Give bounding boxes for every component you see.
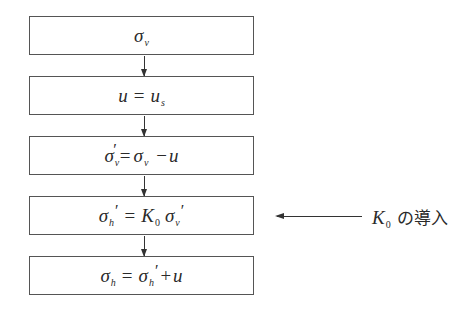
k-symbol: K	[141, 205, 154, 227]
u-symbol: u	[150, 85, 160, 107]
prime-mark: ′	[113, 141, 117, 159]
equals-operator: =	[120, 145, 131, 167]
subscript-0: 0	[155, 217, 160, 228]
subscript-h: h	[149, 277, 154, 288]
flow-step-pore-pressure: u = us	[29, 76, 254, 115]
equals-operator: =	[134, 85, 145, 107]
prime-mark: ′	[181, 202, 185, 220]
flow-step-effective-horizontal-stress: σh′ = K0 σv′	[29, 196, 254, 235]
u-symbol: u	[118, 85, 128, 107]
sigma-symbol: σ	[99, 205, 108, 227]
subscript-v: v	[144, 157, 148, 168]
formula-u-equals-us: u = us	[118, 85, 165, 107]
subscript-h: h	[111, 277, 116, 288]
equals-operator: =	[122, 265, 133, 287]
plus-operator: +	[160, 265, 171, 287]
sigma-symbol: σ	[100, 265, 109, 287]
u-symbol: u	[173, 265, 183, 287]
minus-operator: −	[156, 145, 167, 167]
sigma-symbol: σ	[134, 25, 143, 47]
sigma-symbol: σ	[134, 145, 143, 167]
arrow-left-annotation	[277, 216, 362, 217]
prime-mark: ′	[155, 262, 159, 280]
flow-step-effective-vertical-stress: σv′ = σv − u	[29, 136, 254, 175]
subscript-s: s	[161, 97, 165, 108]
u-symbol: u	[169, 145, 179, 167]
arrow-down-4-to-5	[144, 236, 145, 256]
formula-total-horizontal: σh = σh′ + u	[100, 265, 182, 287]
formula-sigma-v: σv	[134, 25, 149, 47]
annotation-k0-introduction: K0 の導入	[372, 204, 448, 229]
arrow-down-2-to-3	[144, 116, 145, 136]
sigma-symbol: σ	[165, 205, 174, 227]
subscript-h: h	[109, 217, 114, 228]
k-symbol: K	[372, 207, 385, 229]
subscript-0: 0	[386, 219, 391, 230]
annotation-text: の導入	[397, 204, 448, 229]
sigma-symbol: σ	[139, 265, 148, 287]
flow-step-sigma-v: σv	[29, 16, 254, 55]
arrow-down-1-to-2	[144, 56, 145, 76]
arrow-down-3-to-4	[144, 176, 145, 196]
subscript-v: v	[175, 217, 179, 228]
prime-mark: ′	[115, 202, 119, 220]
equals-operator: =	[125, 205, 136, 227]
formula-effective-horizontal: σh′ = K0 σv′	[99, 205, 185, 227]
subscript-v: v	[144, 37, 148, 48]
flow-step-total-horizontal-stress: σh = σh′ + u	[29, 256, 254, 295]
formula-effective-vertical: σv′ = σv − u	[104, 145, 178, 167]
